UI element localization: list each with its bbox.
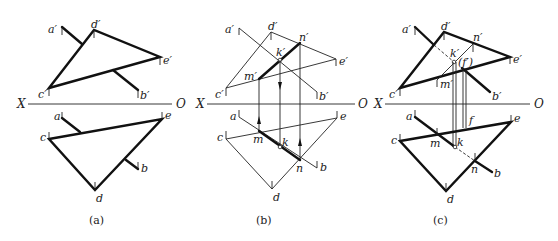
axis-o-label: O bbox=[358, 97, 368, 111]
point-label-f-prime: (f′) bbox=[458, 56, 473, 69]
point-label-d: d bbox=[273, 191, 280, 204]
point-label-n: n bbox=[471, 163, 478, 176]
point-label-a-prime: a′ bbox=[402, 23, 412, 36]
line-ab-top bbox=[239, 117, 317, 168]
point-label-m-prime: m′ bbox=[440, 78, 453, 91]
point-label-d: d bbox=[447, 193, 454, 206]
panel-c: X O a′ d′ n′ k′ (f′) e′ m′ c′ b′ bbox=[373, 20, 544, 227]
point-label-d: d bbox=[96, 192, 103, 205]
point-label-b: b bbox=[494, 167, 501, 180]
point-label-e-prime: e′ bbox=[163, 54, 173, 67]
point-label-a: a bbox=[406, 110, 413, 123]
point-label-n-prime: n′ bbox=[299, 31, 309, 44]
arrow-up-icon bbox=[257, 116, 261, 124]
arrow-down-icon bbox=[278, 82, 282, 90]
axis-x-label: X bbox=[16, 97, 26, 111]
point-label-b: b bbox=[141, 162, 148, 175]
point-label-b-prime: b′ bbox=[319, 90, 329, 103]
triangle-top-view bbox=[400, 122, 511, 191]
point-label-e: e bbox=[340, 110, 347, 123]
point-label-a: a bbox=[54, 110, 61, 123]
line-ab-top-upper bbox=[62, 118, 80, 132]
point-label-k: k bbox=[457, 136, 464, 149]
point-label-n: n bbox=[296, 162, 303, 175]
point-label-n-prime: n′ bbox=[473, 31, 483, 44]
line-ab-front-lower bbox=[113, 70, 138, 90]
point-label-m-prime: m′ bbox=[244, 70, 257, 83]
point-label-b: b bbox=[320, 161, 327, 174]
point-label-c: c bbox=[391, 134, 397, 147]
point-label-m: m bbox=[253, 133, 263, 146]
point-label-e-prime: e′ bbox=[513, 53, 523, 66]
triangle-front-view bbox=[49, 30, 160, 88]
line-ab-top-hidden bbox=[455, 147, 475, 161]
line-ab-front-visible-upper bbox=[415, 27, 434, 45]
triangle-front-view bbox=[400, 32, 510, 88]
point-label-a-prime: a′ bbox=[225, 23, 235, 36]
point-label-c: c bbox=[40, 131, 46, 144]
triangle-top-view bbox=[49, 119, 162, 190]
panel-a: X O a′ d′ e′ c′ b′ a e c b d (a) bbox=[16, 18, 186, 227]
panel-b: X O a′ d′ n′ k′ e′ m′ c′ b′ bbox=[195, 20, 368, 227]
point-label-e: e bbox=[165, 109, 172, 122]
descriptive-geometry-figure: X O a′ d′ e′ c′ b′ a e c b d (a) bbox=[0, 0, 558, 241]
point-label-b-prime: b′ bbox=[492, 90, 502, 103]
point-label-m: m bbox=[430, 137, 440, 150]
arrow-up-icon bbox=[298, 138, 302, 146]
axis-o-label: O bbox=[176, 97, 186, 111]
point-label-b-prime: b′ bbox=[140, 89, 150, 102]
point-label-a: a bbox=[230, 110, 237, 123]
point-label-c-prime: c′ bbox=[215, 88, 224, 101]
caption-a: (a) bbox=[89, 214, 104, 227]
caption-c: (c) bbox=[433, 214, 448, 227]
point-label-c-prime: c′ bbox=[38, 88, 47, 101]
point-label-k-prime: k′ bbox=[276, 46, 286, 59]
point-label-d-prime: d′ bbox=[268, 20, 278, 33]
caption-b: (b) bbox=[256, 214, 272, 227]
axis-x-label: X bbox=[195, 97, 205, 111]
point-label-f: f bbox=[468, 114, 475, 127]
point-label-d-prime: d′ bbox=[91, 18, 101, 31]
point-label-k: k bbox=[282, 136, 289, 149]
point-label-c-prime: c′ bbox=[389, 88, 398, 101]
axis-x-label: X bbox=[373, 97, 383, 111]
point-label-a-prime: a′ bbox=[48, 23, 58, 36]
triangle-top-view bbox=[226, 118, 337, 189]
axis-o-label: O bbox=[534, 97, 544, 111]
point-label-d-prime: d′ bbox=[441, 20, 451, 33]
line-ab-top-lower bbox=[126, 160, 138, 169]
point-label-c: c bbox=[217, 131, 223, 144]
point-label-e: e bbox=[514, 112, 521, 125]
line-ab-front-upper bbox=[62, 27, 82, 44]
point-label-e-prime: e′ bbox=[339, 55, 349, 68]
